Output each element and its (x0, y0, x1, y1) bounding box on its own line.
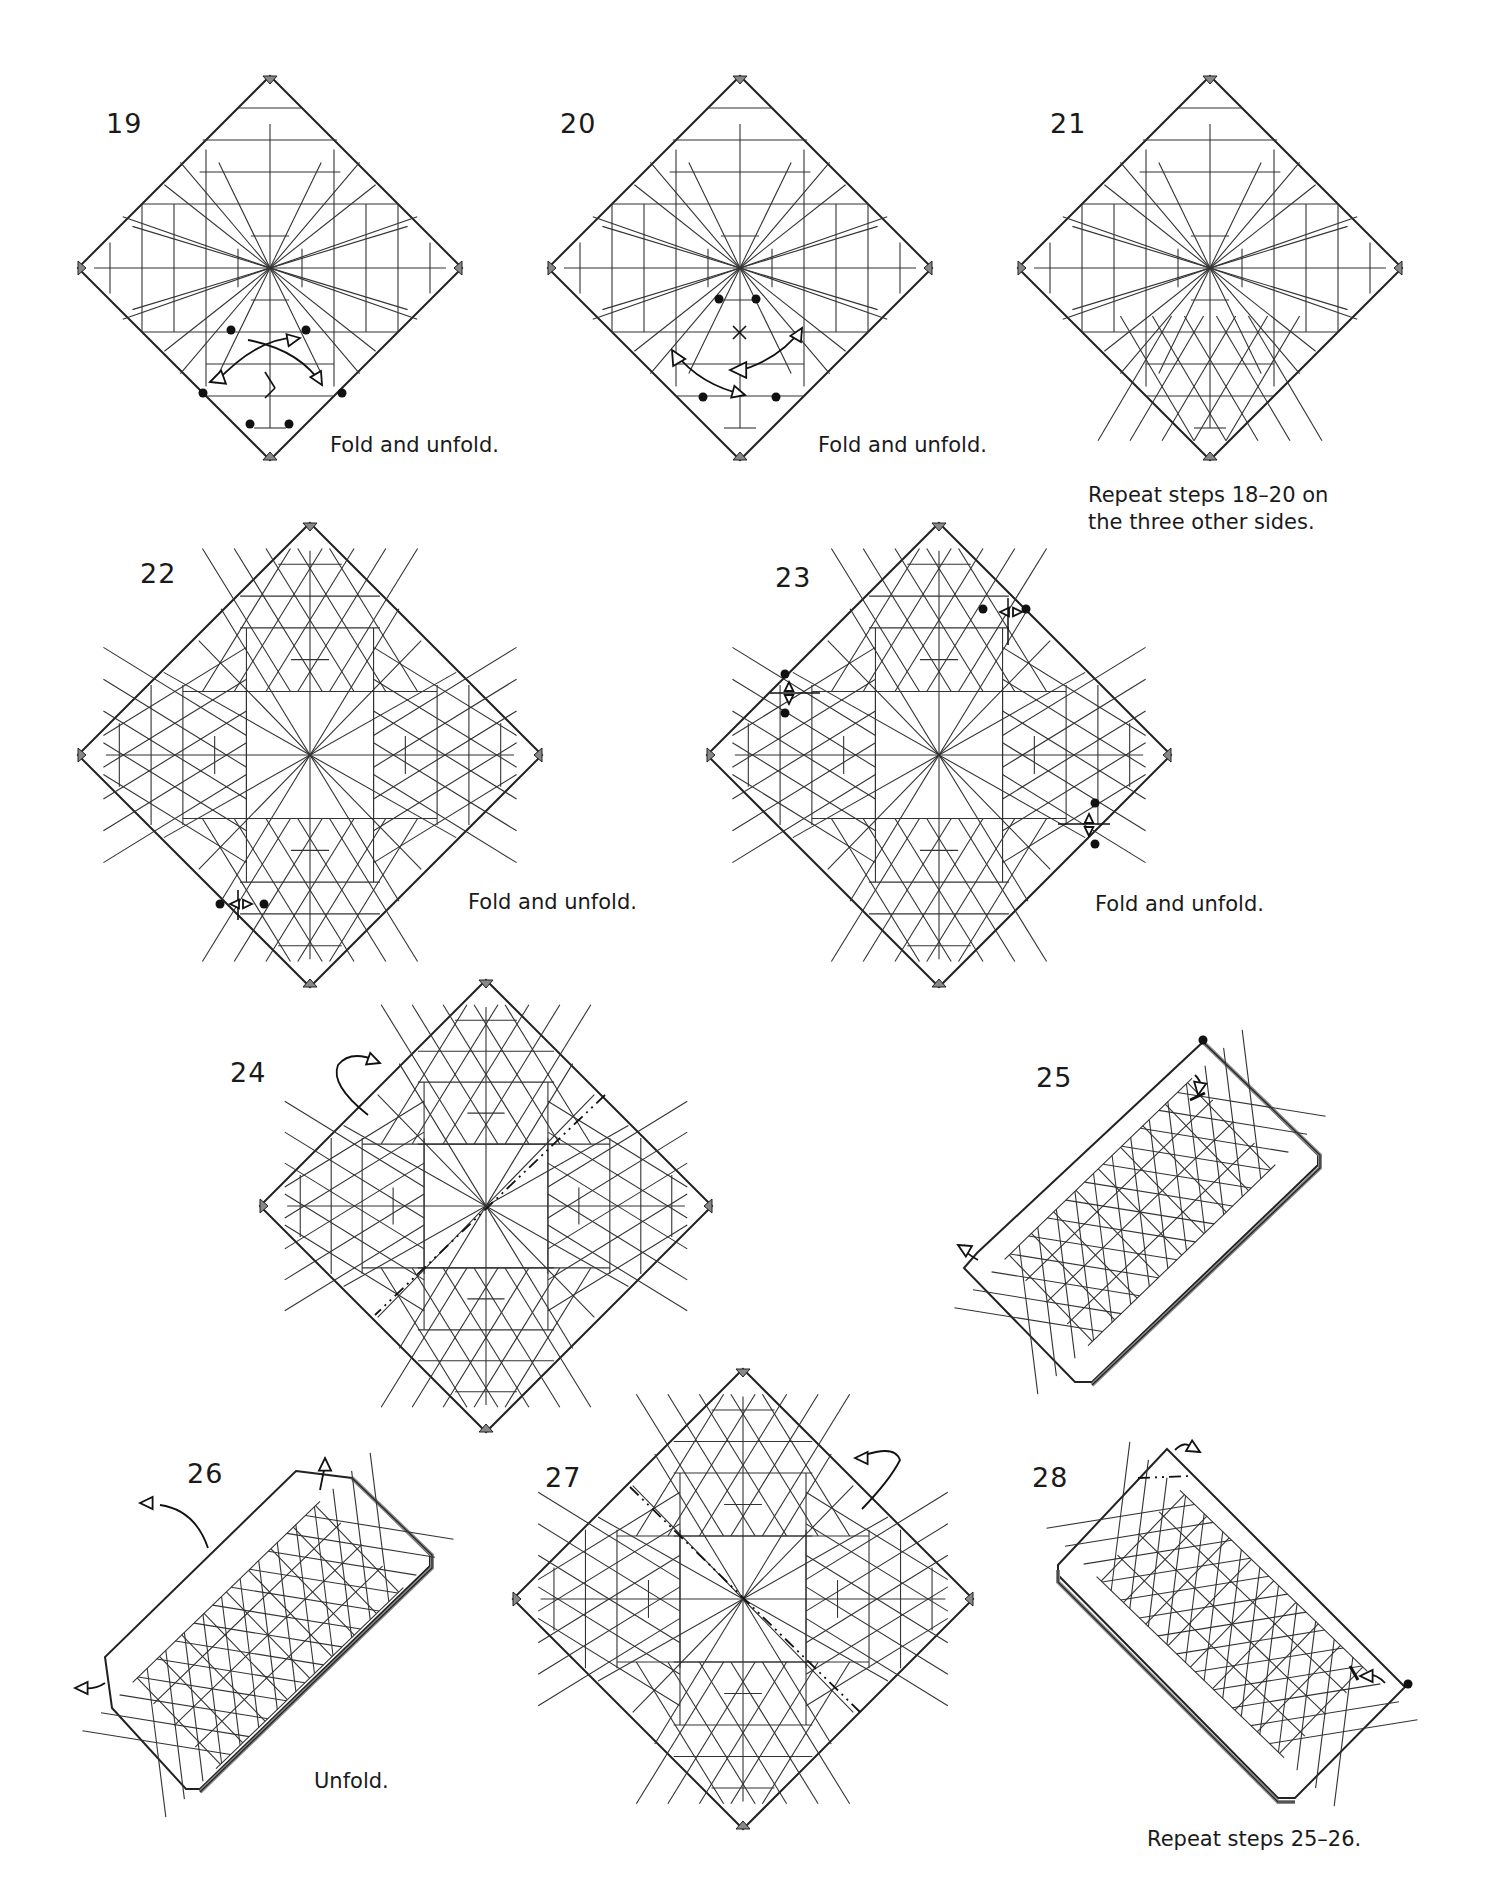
step-caption: Repeat steps 25–26. (1147, 1826, 1361, 1853)
folded-model-diagram (0, 0, 1493, 1890)
step-number: 28 (1032, 1462, 1068, 1493)
